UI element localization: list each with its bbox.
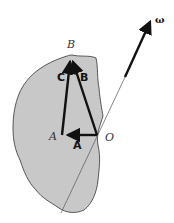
point-o-label: O xyxy=(105,131,114,144)
omega-label: ω xyxy=(155,14,165,25)
vector-c-label: C xyxy=(57,71,65,84)
point-a-label: A xyxy=(48,130,57,143)
diagram-canvas: B A O C B A ω xyxy=(0,0,174,223)
vector-b-label: B xyxy=(80,71,88,84)
point-b-label: B xyxy=(66,38,75,51)
vector-a-label: A xyxy=(73,139,82,152)
omega-vector-arrow xyxy=(125,22,150,77)
